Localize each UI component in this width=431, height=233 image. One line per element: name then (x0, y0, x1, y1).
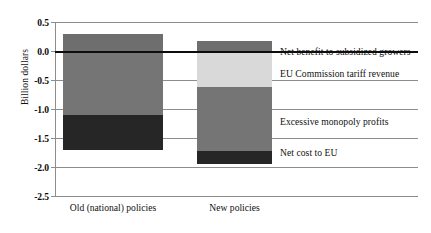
y-tick-1: 0.0 (13, 46, 49, 57)
stacked-bar-chart: Billion dollars 0.5 0.0 -0.5 -1.0 -1.5 -… (0, 0, 431, 233)
segment-eu-commission-tariff-revenue (197, 51, 272, 87)
tickmark--2.0 (51, 167, 55, 168)
plot-area: Net benefit to subsidized growers EU Com… (55, 22, 418, 196)
annotation-net-benefit-to-subsidized-growers: Net benefit to subsidized growers (280, 46, 411, 57)
tickmark-0.5 (51, 22, 55, 23)
annotation-excessive-monopoly-profits: Excessive monopoly profits (280, 116, 388, 127)
gridline--2.0 (55, 167, 418, 168)
category-label-old-national-policies: Old (national) policies (70, 202, 156, 213)
segment-net-benefit-to-subsidized-growers (63, 34, 163, 51)
segment-excessive-monopoly-profits (63, 51, 163, 115)
gridline--2.5 (55, 196, 418, 197)
bar-new-policies (197, 41, 272, 164)
segment-excessive-monopoly-profits (197, 87, 272, 151)
y-tick-4: -1.5 (13, 133, 49, 144)
y-tick-3: -1.0 (13, 104, 49, 115)
bar-old-national-policies (63, 34, 163, 133)
segment-net-cost-to-eu (63, 115, 163, 150)
segment-net-cost-to-eu (197, 151, 272, 164)
annotation-net-cost-to-eu: Net cost to EU (280, 147, 337, 158)
annotation-eu-commission-tariff-revenue: EU Commission tariff revenue (280, 68, 399, 79)
y-axis-tick-labels: 0.5 0.0 -0.5 -1.0 -1.5 -2.0 -2.5 (9, 0, 49, 233)
tickmark--1.5 (51, 138, 55, 139)
y-tick-2: -0.5 (13, 75, 49, 86)
gridline-0.5 (55, 22, 418, 23)
category-label-new-policies: New policies (209, 202, 259, 213)
y-tick-6: -2.5 (13, 191, 49, 202)
tickmark--1.0 (51, 109, 55, 110)
tickmark--0.5 (51, 80, 55, 81)
segment-net-benefit-to-subsidized-growers (197, 41, 272, 51)
y-tick-0: 0.5 (13, 17, 49, 28)
y-tick-5: -2.0 (13, 162, 49, 173)
tickmark--2.5 (51, 196, 55, 197)
